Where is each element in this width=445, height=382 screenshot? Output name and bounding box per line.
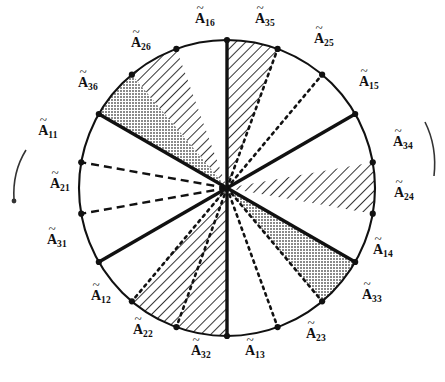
point-label-A33: ~A33 bbox=[362, 288, 382, 304]
point-label-A14: ~A14 bbox=[373, 243, 393, 259]
point-label-A11: ~A11 bbox=[38, 124, 58, 140]
point-label-A35: ~A35 bbox=[255, 12, 275, 28]
boundary-point-A26 bbox=[173, 46, 179, 52]
boundary-point-A21 bbox=[78, 159, 84, 165]
point-label-A16: ~A16 bbox=[195, 12, 215, 28]
boundary-point-A35 bbox=[275, 46, 281, 52]
boundary-point-A14 bbox=[352, 259, 358, 265]
point-label-A36: ~A36 bbox=[78, 76, 98, 92]
point-label-A22: ~A22 bbox=[133, 323, 153, 339]
point-label-A15: ~A15 bbox=[359, 75, 379, 91]
right-rotation-arrow bbox=[425, 122, 435, 176]
point-label-A21: ~A21 bbox=[50, 177, 70, 193]
boundary-point-A13 bbox=[224, 333, 230, 339]
boundary-point-A34 bbox=[370, 159, 376, 165]
left-rotation-arrow-head bbox=[12, 199, 17, 204]
boundary-point-A32 bbox=[173, 324, 179, 330]
boundary-point-A16 bbox=[224, 37, 230, 43]
point-label-A31: ~A31 bbox=[47, 233, 67, 249]
point-label-A32: ~A32 bbox=[191, 344, 211, 360]
point-label-A23: ~A23 bbox=[306, 327, 326, 343]
boundary-point-A15 bbox=[352, 111, 358, 117]
point-label-A13: ~A13 bbox=[245, 344, 265, 360]
boundary-point-A33 bbox=[319, 298, 325, 304]
left-rotation-arrow bbox=[14, 150, 26, 200]
boundary-point-A24 bbox=[370, 211, 376, 217]
point-label-A24: ~A24 bbox=[394, 186, 414, 202]
boundary-point-A25 bbox=[319, 72, 325, 78]
point-label-A34: ~A34 bbox=[393, 135, 413, 151]
point-label-A26: ~A26 bbox=[131, 36, 151, 52]
boundary-point-A22 bbox=[129, 298, 135, 304]
boundary-point-A11 bbox=[96, 111, 102, 117]
point-label-A12: ~A12 bbox=[91, 289, 111, 305]
boundary-point-A23 bbox=[275, 324, 281, 330]
boundary-point-A36 bbox=[129, 72, 135, 78]
boundary-point-A12 bbox=[96, 259, 102, 265]
point-label-A25: ~A25 bbox=[314, 32, 334, 48]
boundary-point-A31 bbox=[78, 211, 84, 217]
